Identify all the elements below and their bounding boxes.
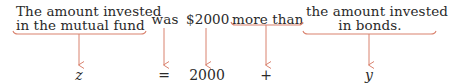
- equation-plus: +: [260, 68, 272, 82]
- translation-diagram: The amount invested in the mutual fund w…: [0, 0, 452, 84]
- equation-equals: =: [158, 68, 170, 82]
- brackets-and-arrows: [0, 0, 452, 84]
- equation-variable-z: z: [75, 68, 82, 82]
- bracket-bonds: [303, 31, 436, 34]
- bracket-mutual-fund: [13, 31, 146, 34]
- equation-constant: 2000: [189, 68, 225, 82]
- equation-variable-y: y: [365, 68, 373, 82]
- bracket-more-than: [231, 22, 303, 25]
